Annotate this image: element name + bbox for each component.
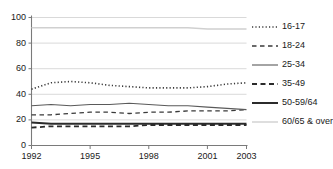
legend-label: 25-34 (278, 60, 305, 69)
legend-item-16-17[interactable]: 16-17 (252, 17, 328, 36)
x-tick-label-1992: 1992 (21, 152, 41, 161)
legend-label: 16-17 (278, 22, 305, 31)
legend-item-60-65-over[interactable]: 60/65 & over (252, 112, 328, 131)
legend-label: 60/65 & over (278, 117, 333, 126)
legend-label: 35-49 (278, 79, 305, 88)
series-line-50-59-64 (32, 122, 247, 123)
gridlines (32, 18, 247, 146)
y-tick-label-60: 60 (0, 64, 26, 73)
x-tick-label-1995: 1995 (80, 152, 100, 161)
y-tick-label-100: 100 (0, 13, 26, 22)
series-line-60-65-over (32, 28, 247, 29)
legend-item-18-24[interactable]: 18-24 (252, 36, 328, 55)
legend-swatch-icon (252, 60, 278, 70)
legend-swatch-icon (252, 41, 278, 51)
series-line-18-24 (32, 110, 247, 115)
y-tick-label-0: 0 (0, 141, 26, 150)
series-line-35-49 (32, 125, 247, 128)
x-tick-label-2003: 2003 (236, 152, 256, 161)
legend-swatch-icon (252, 22, 278, 32)
legend-swatch-icon (252, 79, 278, 89)
x-tick-label-2001: 2001 (197, 152, 217, 161)
legend-swatch-icon (252, 98, 278, 108)
series-line-25-34 (32, 103, 247, 109)
chart-legend: 16-1718-2425-3435-4950-59/6460/65 & over (252, 17, 328, 131)
legend-label: 18-24 (278, 41, 305, 50)
y-tick-label-40: 40 (0, 90, 26, 99)
legend-item-25-34[interactable]: 25-34 (252, 55, 328, 74)
legend-item-50-59-64[interactable]: 50-59/64 (252, 93, 328, 112)
y-tick-label-20: 20 (0, 115, 26, 124)
x-tick-label-1998: 1998 (139, 152, 159, 161)
legend-item-35-49[interactable]: 35-49 (252, 74, 328, 93)
y-tick-label-80: 80 (0, 39, 26, 48)
legend-label: 50-59/64 (278, 98, 318, 107)
axis-lines (32, 16, 248, 146)
series-line-16-17 (32, 82, 247, 90)
legend-swatch-icon (252, 117, 278, 127)
